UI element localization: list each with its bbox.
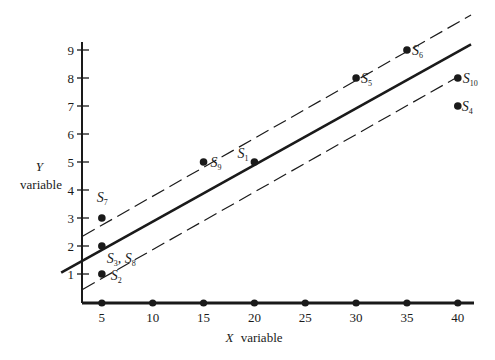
y-tick: 6 [68, 127, 90, 142]
regression-line-solid [61, 44, 471, 272]
point-label-s3-s8: S3, S8 [107, 251, 136, 268]
y-tick-label: 5 [68, 155, 75, 170]
data-point [251, 158, 259, 166]
x-axis-point [251, 299, 258, 306]
point-label: S2 [111, 268, 122, 285]
y-tick: 9 [68, 43, 90, 58]
x-tick-label: 10 [146, 310, 159, 325]
point-label: S7 [97, 190, 108, 207]
x-tick-label: 35 [400, 310, 413, 325]
y-tick: 8 [68, 71, 90, 86]
regression-line [61, 44, 471, 272]
data-point [454, 102, 462, 110]
point-label: S10 [463, 71, 478, 88]
data-point [403, 46, 411, 54]
y-tick: 3 [68, 211, 90, 226]
y-tick: 7 [68, 99, 90, 114]
y-tick: 5 [68, 155, 90, 170]
y-tick: 1 [68, 267, 90, 282]
x-axis: 510152025303540 [82, 299, 474, 325]
data-point [98, 214, 106, 222]
x-tick: 5 [98, 299, 105, 325]
y-tick-label: 1 [68, 267, 75, 282]
point-label: S5 [361, 71, 372, 88]
x-axis-point [98, 299, 105, 306]
x-axis-point [302, 299, 309, 306]
point-label: S9 [211, 155, 222, 172]
data-point [352, 74, 360, 82]
scatter-chart: 123456789 510152025303540 S1S2S4S5S6S7S9… [0, 0, 495, 360]
y-tick: 4 [68, 183, 90, 198]
x-axis-point [149, 299, 156, 306]
x-tick-label: 25 [299, 310, 312, 325]
y-tick-label: 2 [68, 239, 75, 254]
x-axis-title: X variable [224, 330, 282, 345]
x-tick-label: 5 [99, 310, 106, 325]
x-axis-point [454, 299, 461, 306]
x-axis-point [353, 299, 360, 306]
y-tick-label: 4 [68, 183, 75, 198]
confidence-band-lower [83, 78, 456, 289]
point-label: S6 [412, 43, 423, 60]
point-label: S4 [462, 99, 473, 116]
x-tick-label: 40 [451, 310, 464, 325]
x-tick-label: 15 [197, 310, 210, 325]
data-point [200, 158, 208, 166]
data-point [454, 74, 462, 82]
x-axis-point [403, 299, 410, 306]
y-axis-title: Y variable [20, 159, 62, 192]
y-tick-label: 6 [68, 127, 75, 142]
data-point [98, 242, 106, 250]
y-tick-label: 3 [68, 211, 75, 226]
y-tick: 2 [68, 239, 90, 254]
x-axis-point [200, 299, 207, 306]
y-tick-label: 7 [68, 99, 75, 114]
data-point [98, 270, 106, 278]
x-tick-label: 30 [350, 310, 363, 325]
point-label: S1 [237, 146, 248, 163]
x-tick-label: 20 [248, 310, 261, 325]
y-tick-label: 8 [68, 71, 75, 86]
y-tick-label: 9 [68, 43, 75, 58]
